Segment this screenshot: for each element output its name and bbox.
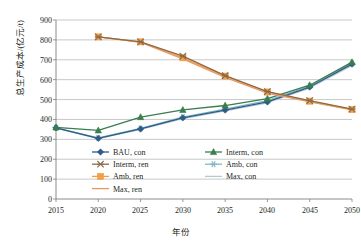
legend-item-max-con[interactable]: Max, con	[205, 172, 256, 181]
legend-label: Amb, ren	[113, 172, 143, 181]
legend-label: Interm, ren	[113, 160, 149, 169]
legend-label: BAU, con	[113, 148, 145, 157]
series-layer	[53, 34, 356, 142]
legend-item-amb-ren[interactable]: Amb, ren	[92, 172, 143, 181]
plot-svg: BAU, conInterm, renAmb, renMax, renInter…	[0, 0, 361, 243]
legend-item-bau-con[interactable]: BAU, con	[92, 148, 145, 157]
gridlines	[56, 20, 352, 199]
legend-item-interm-ren[interactable]: Interm, ren	[92, 160, 149, 169]
chart-legend: BAU, conInterm, renAmb, renMax, renInter…	[92, 148, 263, 194]
legend-item-interm-con[interactable]: Interm, con	[205, 148, 263, 157]
legend-label: Max, ren	[113, 185, 142, 194]
chart-container: 总生产成本/(亿元/t) 年份 900 800 700 600 500 400 …	[0, 0, 361, 243]
series-interm-con	[53, 59, 355, 133]
legend-label: Interm, con	[226, 148, 263, 157]
legend-item-amb-con[interactable]: Amb, con	[205, 160, 258, 169]
legend-label: Amb, con	[226, 160, 258, 169]
legend-label: Max, con	[226, 172, 256, 181]
legend-item-max-ren[interactable]: Max, ren	[92, 185, 142, 194]
series-amb-ren	[95, 34, 355, 113]
